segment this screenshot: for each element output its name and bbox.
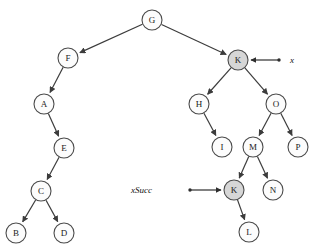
tree-edge-e-c xyxy=(47,157,59,179)
tree-edge-k2-l xyxy=(238,200,245,220)
x-pointer: x xyxy=(251,55,294,65)
tree-node-e[interactable]: E xyxy=(54,138,74,158)
tree-node-d[interactable]: D xyxy=(54,223,74,243)
tree-node-o[interactable]: O xyxy=(266,94,286,114)
node-label-n: N xyxy=(270,185,277,195)
node-label-b: B xyxy=(13,228,19,238)
tree-edge-g-f xyxy=(80,24,143,52)
node-label-m: M xyxy=(249,142,257,152)
node-label-d: D xyxy=(61,228,68,238)
tree-node-m[interactable]: M xyxy=(243,137,263,157)
node-label-k1: K xyxy=(235,55,242,65)
tree-nodes-group: GFKAHOEIMPCKNBDL xyxy=(6,10,308,243)
tree-edge-m-k2 xyxy=(239,157,249,179)
pointer-annotations-group: xxSucc xyxy=(130,55,294,195)
xsucc-pointer-label: xSucc xyxy=(130,185,152,195)
tree-node-l[interactable]: L xyxy=(239,222,259,242)
tree-edge-f-a xyxy=(50,67,63,92)
tree-canvas: xxSucc GFKAHOEIMPCKNBDL xyxy=(0,0,317,252)
binary-search-tree-diagram: xxSucc GFKAHOEIMPCKNBDL xyxy=(0,0,317,252)
node-label-a: A xyxy=(41,99,48,109)
node-label-g: G xyxy=(149,15,156,25)
node-label-k2: K xyxy=(231,185,238,195)
tree-node-k2[interactable]: K xyxy=(224,180,244,200)
tree-edge-m-n xyxy=(257,157,267,179)
tree-edge-a-e xyxy=(48,114,58,137)
tree-edge-c-d xyxy=(46,200,58,221)
node-label-o: O xyxy=(273,99,280,109)
node-label-l: L xyxy=(246,227,252,237)
tree-node-a[interactable]: A xyxy=(34,94,54,114)
tree-node-n[interactable]: N xyxy=(263,180,283,200)
tree-edge-o-m xyxy=(259,113,271,135)
node-label-c: C xyxy=(38,186,44,196)
node-label-e: E xyxy=(61,143,67,153)
node-label-h: H xyxy=(196,99,203,109)
tree-edge-g-k1 xyxy=(162,24,227,54)
tree-edge-k1-o xyxy=(245,68,268,94)
tree-edge-o-p xyxy=(281,113,292,135)
tree-node-i[interactable]: I xyxy=(212,137,232,157)
tree-edge-k1-h xyxy=(208,68,231,94)
xsucc-pointer-origin-dot xyxy=(188,188,191,191)
tree-node-f[interactable]: F xyxy=(58,48,78,68)
xsucc-pointer: xSucc xyxy=(130,185,221,195)
tree-node-k1[interactable]: K xyxy=(228,50,248,70)
x-pointer-origin-dot xyxy=(277,58,280,61)
node-label-p: P xyxy=(295,142,300,152)
tree-node-h[interactable]: H xyxy=(189,94,209,114)
node-label-i: I xyxy=(221,142,224,152)
tree-node-g[interactable]: G xyxy=(142,10,162,30)
tree-node-b[interactable]: B xyxy=(6,223,26,243)
tree-edge-h-i xyxy=(204,113,216,135)
tree-node-c[interactable]: C xyxy=(31,181,51,201)
node-label-f: F xyxy=(65,53,70,63)
tree-node-p[interactable]: P xyxy=(288,137,308,157)
tree-edge-c-b xyxy=(23,200,36,222)
x-pointer-label: x xyxy=(289,55,294,65)
